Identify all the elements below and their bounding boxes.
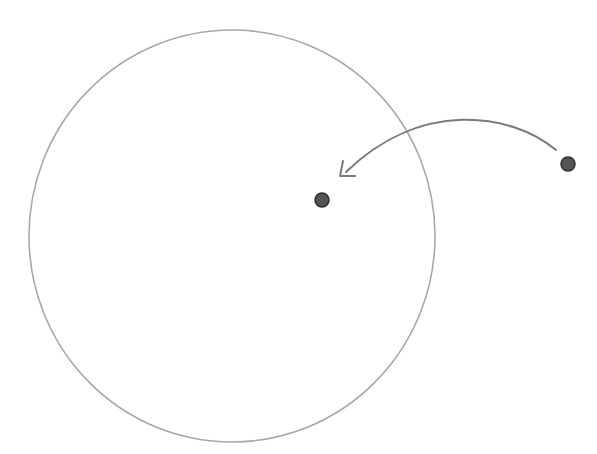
boundary-circle	[29, 30, 435, 442]
diagram-svg	[0, 0, 597, 454]
outer-point	[561, 157, 575, 171]
diagram-canvas	[0, 0, 597, 454]
arrowhead-icon	[340, 161, 355, 176]
inner-point	[315, 193, 329, 207]
curved-arrow	[346, 120, 556, 172]
